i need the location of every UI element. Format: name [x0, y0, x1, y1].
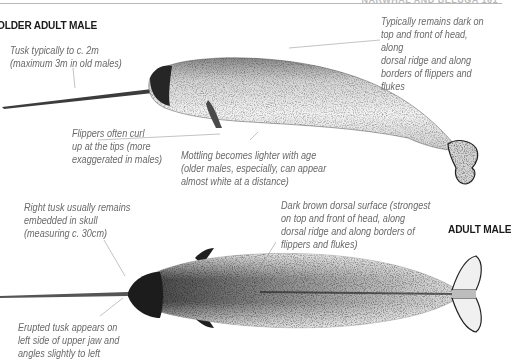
note-tusk-length: Tusk typically to c. 2m (maximum 3m in o… — [10, 44, 122, 70]
note-dorsal-surface: Dark brown dorsal surface (strongest on … — [281, 199, 430, 251]
note-flippers: Flippers often curl up at the tips (more… — [72, 127, 162, 166]
note-erupted-tusk: Erupted tusk appears on left side of upp… — [18, 321, 119, 360]
tusk-icon — [2, 89, 153, 109]
title-older-adult-male: OLDER ADULT MALE — [0, 19, 97, 31]
note-right-tusk: Right tusk usually remains embedded in s… — [24, 201, 130, 240]
adult-male-narwhal — [0, 248, 481, 332]
tusk-icon — [0, 292, 128, 298]
note-mottling: Mottling becomes lighter with age (older… — [181, 149, 326, 188]
note-dark-areas: Typically remains dark on top and front … — [381, 15, 485, 93]
title-adult-male: ADULT MALE — [448, 223, 511, 235]
